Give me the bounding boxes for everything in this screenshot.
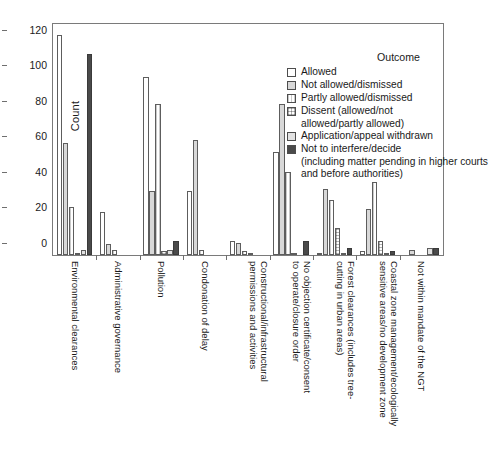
legend-title: Outcome: [305, 51, 492, 63]
x-axis-label: Environmental clearances: [69, 261, 80, 370]
legend-item-label-cont: (including matter pending in higher cour…: [301, 156, 492, 181]
legend-item-label: Not allowed/dismissed: [301, 79, 492, 91]
bar: [100, 212, 105, 255]
y-tick-label: 100: [7, 59, 53, 71]
x-axis-label: Forest clearances (includes tree-cutting…: [335, 261, 356, 399]
legend-item: Partly allowed/dismissed: [287, 92, 492, 104]
bar: [317, 253, 322, 255]
bar: [149, 191, 154, 255]
vertical-stripe-swatch: [287, 94, 296, 103]
legend-item-label: Not to interfere/decide(including matter…: [301, 143, 492, 180]
bar: [173, 241, 178, 255]
bar-group: [187, 24, 223, 255]
y-tick-mark: [2, 65, 7, 66]
x-tick-mark: [400, 255, 401, 260]
legend-item: Not allowed/dismissed: [287, 79, 492, 91]
bar: [378, 241, 383, 255]
bar: [341, 253, 346, 255]
legend-item: Allowed: [287, 66, 492, 78]
bar: [329, 200, 334, 255]
bar: [87, 54, 92, 255]
bar: [291, 253, 296, 255]
x-axis-label-line: Condonation of delay: [199, 261, 210, 351]
y-tick-label: 20: [7, 201, 53, 213]
x-axis-label: Condonation of delay: [199, 261, 210, 351]
x-axis-label-line: permissions and activities: [248, 261, 259, 382]
x-axis-label-line: to operate/closure order: [291, 261, 302, 393]
bar-group: [143, 24, 179, 255]
x-tick-mark: [226, 255, 227, 260]
x-axis-label: Constructional/infrastructuralpermission…: [248, 261, 269, 382]
dark-gray-swatch: [287, 145, 296, 154]
y-tick-label: 0: [7, 237, 53, 249]
bar: [366, 209, 371, 255]
legend-item-label: Allowed: [301, 66, 492, 78]
x-axis-label-line: sensitive areas/no development zone: [378, 261, 389, 426]
x-axis-label: Not within mandate of the NGT: [416, 261, 427, 391]
bar: [187, 191, 192, 255]
bar: [248, 253, 253, 255]
bar: [193, 140, 198, 256]
bar: [347, 248, 352, 255]
y-tick-label: 60: [7, 130, 53, 142]
x-axis-label-line: Constructional/infrastructural: [259, 261, 270, 382]
bar: [273, 152, 278, 255]
x-axis-label-line: cutting in urban areas): [335, 261, 346, 399]
legend-item-label: Dissent (allowed/notallowed/partly allow…: [301, 105, 492, 130]
legend: Outcome AllowedNot allowed/dismissedPart…: [287, 51, 492, 181]
legend-item-label: Application/appeal withdrawn: [301, 130, 492, 142]
bar: [81, 250, 86, 255]
bar: [155, 104, 160, 255]
x-axis-label-line: Pollution: [156, 261, 167, 297]
bar: [69, 207, 74, 255]
x-tick-mark: [313, 255, 314, 260]
y-tick-label: 80: [7, 95, 53, 107]
legend-item: Not to interfere/decide(including matter…: [287, 143, 492, 180]
bar: [285, 172, 290, 256]
x-axis-label-line: Coastal zone management/ecologically: [389, 261, 400, 426]
y-tick-label: 40: [7, 166, 53, 178]
bar: [161, 251, 166, 255]
bar: [335, 228, 340, 255]
y-tick-mark: [2, 136, 7, 137]
bar: [427, 248, 432, 255]
bar: [143, 77, 148, 255]
bar: [57, 35, 62, 255]
bar: [106, 244, 111, 255]
x-tick-mark: [96, 255, 97, 260]
bar: [323, 189, 328, 255]
y-tick-mark: [2, 207, 7, 208]
x-tick-mark: [270, 255, 271, 260]
x-axis-label: Administrative governance: [113, 261, 124, 373]
x-axis-label-line: Administrative governance: [113, 261, 124, 373]
bar: [360, 251, 365, 255]
x-tick-mark: [140, 255, 141, 260]
bar-group: [230, 24, 266, 255]
bar: [112, 250, 117, 255]
bar: [303, 241, 308, 255]
y-tick-mark: [2, 172, 7, 173]
legend-item: Dissent (allowed/notallowed/partly allow…: [287, 105, 492, 130]
y-tick-label: 120: [7, 24, 53, 36]
plot-area: Count 020406080100120 Outcome AllowedNot…: [52, 23, 444, 256]
x-axis-label: No objection certificate/consentto opera…: [291, 261, 312, 393]
legend-item-label: Partly allowed/dismissed: [301, 92, 492, 104]
bar: [236, 243, 241, 255]
pale-gray-swatch: [287, 132, 296, 141]
x-axis-label-line: Forest clearances (includes tree-: [345, 261, 356, 399]
empty-white-swatch: [287, 68, 296, 77]
bar: [372, 182, 377, 255]
y-tick-mark: [2, 30, 7, 31]
y-tick-mark: [2, 243, 7, 244]
bar: [75, 253, 80, 255]
crosshatch-swatch: [287, 107, 296, 116]
x-tick-mark: [183, 255, 184, 260]
bar: [279, 104, 284, 255]
bar: [384, 253, 389, 255]
bar: [433, 248, 438, 255]
bar: [167, 250, 172, 255]
bar: [199, 250, 204, 255]
light-gray-swatch: [287, 81, 296, 90]
x-axis-label-line: Not within mandate of the NGT: [416, 261, 427, 391]
bar-group: [100, 24, 136, 255]
